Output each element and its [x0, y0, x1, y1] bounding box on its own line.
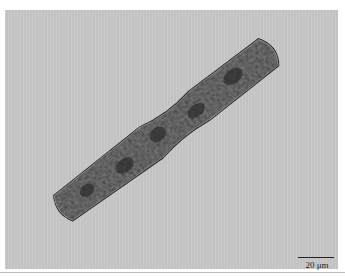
organism — [5, 10, 338, 269]
scale-bar — [298, 257, 334, 258]
micrograph: 20 μm — [5, 10, 338, 269]
scale-bar-label: 20 μm — [297, 260, 337, 270]
divider — [0, 272, 345, 273]
